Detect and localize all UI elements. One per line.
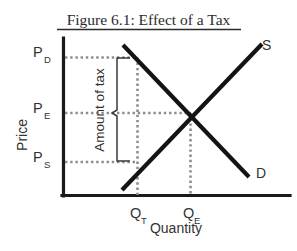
y-tick-pe-base: P	[33, 100, 43, 116]
y-tick-pd-base: P	[33, 44, 43, 60]
amount-of-tax-label: Amount of tax	[92, 68, 107, 152]
figure-effect-of-a-tax: Figure 6.1: Effect of a Tax S D P D P E	[0, 0, 297, 251]
y-axis-label: Price	[14, 119, 30, 151]
figure-title: Figure 6.1: Effect of a Tax	[67, 11, 231, 28]
supply-demand-tax-chart: Figure 6.1: Effect of a Tax S D P D P E	[0, 0, 297, 251]
y-tick-ps-base: P	[33, 149, 43, 165]
x-tick-qt-subscript: T	[141, 215, 147, 226]
x-tick-qe-base: Q	[183, 205, 194, 221]
amount-of-tax-bracket	[112, 58, 130, 161]
x-tick-qt: Q T	[130, 205, 147, 226]
x-tick-qt-base: Q	[130, 205, 141, 221]
y-tick-pe-subscript: E	[44, 110, 50, 121]
y-tick-pd: P D	[33, 44, 51, 65]
demand-curve	[123, 45, 249, 177]
x-axis-label: Quantity	[150, 220, 202, 236]
y-tick-ps: P S	[33, 149, 50, 170]
supply-curve-label: S	[262, 37, 271, 53]
y-tick-pe: P E	[33, 100, 50, 121]
y-tick-pd-subscript: D	[44, 54, 51, 65]
demand-curve-label: D	[256, 165, 266, 181]
y-tick-ps-subscript: S	[44, 159, 50, 170]
